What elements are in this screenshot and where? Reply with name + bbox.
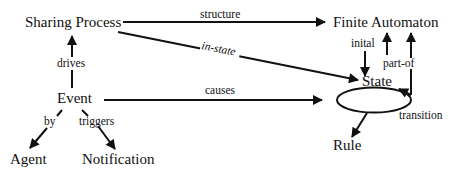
edge-triggers-arrow <box>98 126 115 149</box>
node-event: Event <box>57 90 93 106</box>
edge-label-transition: transition <box>399 109 443 121</box>
edge-label-part-of: part-of <box>383 57 414 70</box>
edge-rule-arrow <box>352 113 367 137</box>
edge-label-structure: structure <box>200 8 240 20</box>
node-finite-automaton: Finite Automaton <box>333 14 439 30</box>
concept-diagram: Sharing Process Finite Automaton State E… <box>0 0 453 178</box>
edge-label-causes: causes <box>205 84 236 96</box>
node-sharing-process: Sharing Process <box>25 14 121 30</box>
edge-by-line-top <box>57 110 62 116</box>
edge-label-inital: inital <box>351 37 375 49</box>
node-agent: Agent <box>10 151 47 167</box>
edge-label-triggers: triggers <box>79 115 115 128</box>
edge-by-arrow <box>30 128 47 148</box>
node-rule: Rule <box>333 137 362 153</box>
edge-label-by: by <box>44 115 56 128</box>
node-notification: Notification <box>82 151 155 167</box>
edge-label-drives: drives <box>57 57 86 69</box>
